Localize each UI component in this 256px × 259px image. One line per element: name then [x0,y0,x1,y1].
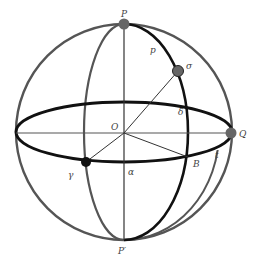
label-gamma: γ [68,170,74,180]
label-alpha: α [128,167,134,177]
label-polar-distance: p [150,45,156,55]
label-q: Q [239,129,247,139]
line-o-gamma [86,133,124,162]
point-gamma [81,157,91,167]
point-p [119,19,130,30]
label-p-prime: P′ [117,246,126,256]
celestial-sphere-diagram: P p σ δ O Q t B α γ P′ [0,0,256,259]
label-sigma: σ [186,61,193,71]
label-o: O [111,122,119,132]
line-o-b [124,133,188,157]
label-delta: δ [178,107,183,117]
label-b: B [192,159,200,169]
label-p: P [120,9,128,19]
point-q [226,128,237,139]
point-sigma [173,66,184,77]
label-t: t [215,150,219,160]
